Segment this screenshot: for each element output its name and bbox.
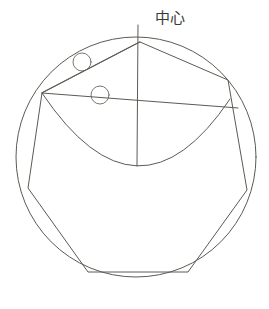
outer-circle <box>16 37 256 277</box>
center-label: 中心 <box>155 11 185 26</box>
marker-circle-lower <box>91 86 109 104</box>
diagram-canvas: 中心 <box>0 0 269 309</box>
inner-arc <box>42 93 230 166</box>
marker-circle-upper <box>73 53 91 71</box>
geometry-figure <box>0 0 269 309</box>
chord-left-right <box>42 93 238 108</box>
vertical-center-line <box>137 25 138 166</box>
